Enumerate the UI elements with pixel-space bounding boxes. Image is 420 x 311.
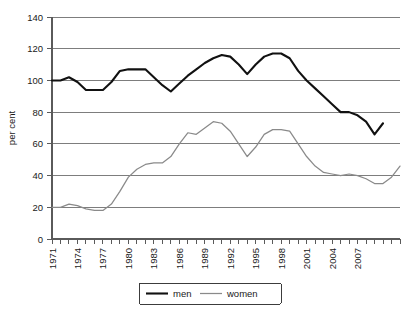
y-tick-label-60: 60 bbox=[32, 138, 43, 149]
y-tick-label-80: 80 bbox=[32, 107, 43, 118]
line-chart-figure: 140 120 100 80 60 40 20 0 per cent 19711… bbox=[0, 0, 420, 311]
x-tick-label-2001: 2001 bbox=[301, 248, 312, 269]
y-tick-label-100: 100 bbox=[27, 75, 43, 86]
x-tick-label-1974: 1974 bbox=[72, 248, 83, 269]
y-tick-label-20: 20 bbox=[32, 202, 43, 213]
y-axis-title: per cent bbox=[6, 110, 17, 145]
y-tick-label-40: 40 bbox=[32, 170, 43, 181]
x-tick-label-1995: 1995 bbox=[250, 248, 261, 269]
chart-legend: men women bbox=[139, 283, 281, 304]
x-tick-label-1971: 1971 bbox=[47, 248, 58, 269]
x-tick-label-2007: 2007 bbox=[352, 248, 363, 269]
x-tick-label-1980: 1980 bbox=[123, 248, 134, 269]
x-axis-tick-labels: 1971197419771980198319861989199219951998… bbox=[47, 248, 364, 269]
y-tick-label-120: 120 bbox=[27, 43, 43, 54]
legend-label-women: women bbox=[226, 288, 258, 299]
chart-canvas: 140 120 100 80 60 40 20 0 per cent 19711… bbox=[0, 0, 420, 311]
x-tick-label-1977: 1977 bbox=[97, 248, 108, 269]
y-tick-label-140: 140 bbox=[27, 12, 43, 23]
x-tick-label-1986: 1986 bbox=[174, 248, 185, 269]
y-axis-ticks bbox=[47, 17, 52, 239]
x-tick-label-1989: 1989 bbox=[199, 248, 210, 269]
y-tick-label-0: 0 bbox=[38, 234, 43, 245]
x-tick-label-2004: 2004 bbox=[327, 248, 338, 269]
x-tick-label-1983: 1983 bbox=[148, 248, 159, 269]
x-tick-label-1998: 1998 bbox=[276, 248, 287, 269]
y-axis-tick-labels: 140 120 100 80 60 40 20 0 bbox=[27, 12, 43, 245]
legend-label-men: men bbox=[173, 288, 191, 299]
x-axis-ticks bbox=[52, 239, 400, 244]
x-tick-label-1992: 1992 bbox=[225, 248, 236, 269]
series-line-women bbox=[52, 122, 400, 211]
